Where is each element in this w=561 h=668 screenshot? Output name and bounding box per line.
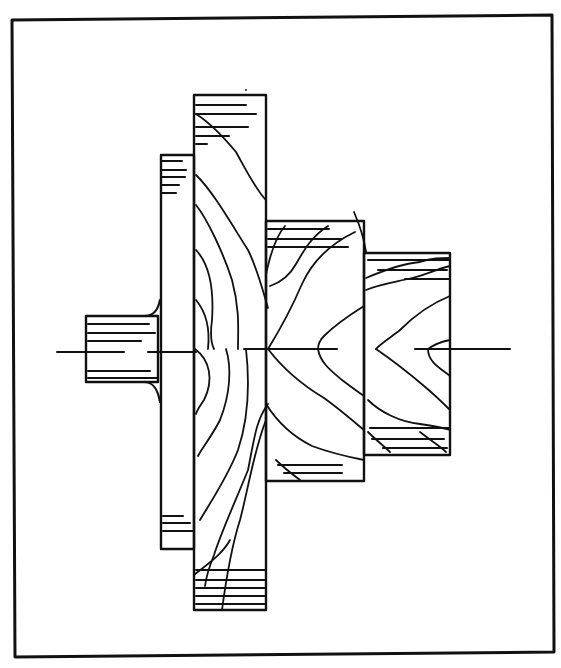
grain-flow-curve <box>196 205 238 349</box>
grain-flow-curve <box>196 175 268 308</box>
grain-flow-curve <box>276 460 300 480</box>
drawing-frame <box>12 15 554 657</box>
grain-flow-curve <box>266 404 364 460</box>
grain-flow-curve <box>368 432 390 452</box>
grain-flow-curve <box>196 250 214 349</box>
grain-flow-curve <box>268 232 355 349</box>
right-hub-outline <box>364 253 450 455</box>
shaft-bodies <box>86 95 450 610</box>
grain-flow-curve <box>428 340 450 376</box>
left-stub-outline <box>86 316 158 382</box>
grain-flow-curve <box>268 349 364 430</box>
shaft-diagram <box>0 0 561 668</box>
grain-flow-curve <box>318 349 364 396</box>
grain-flow-curve <box>266 226 285 276</box>
grain-flow-curve <box>195 349 210 414</box>
hatch-lines <box>88 105 450 604</box>
center-axis-lines <box>57 349 510 352</box>
drawing-canvas <box>0 0 561 668</box>
grain-flow-curve <box>376 349 450 410</box>
grain-flow-curve <box>200 349 248 520</box>
mid-hub-outline <box>266 221 364 481</box>
large-disk-outline <box>194 95 266 610</box>
grain-flow-curve <box>196 300 209 349</box>
grain-flow-curve <box>376 296 450 349</box>
lower-fillet <box>144 382 160 402</box>
grain-flow-curve <box>318 306 364 349</box>
grain-flow-curve <box>368 400 450 430</box>
upper-fillet <box>144 300 160 316</box>
